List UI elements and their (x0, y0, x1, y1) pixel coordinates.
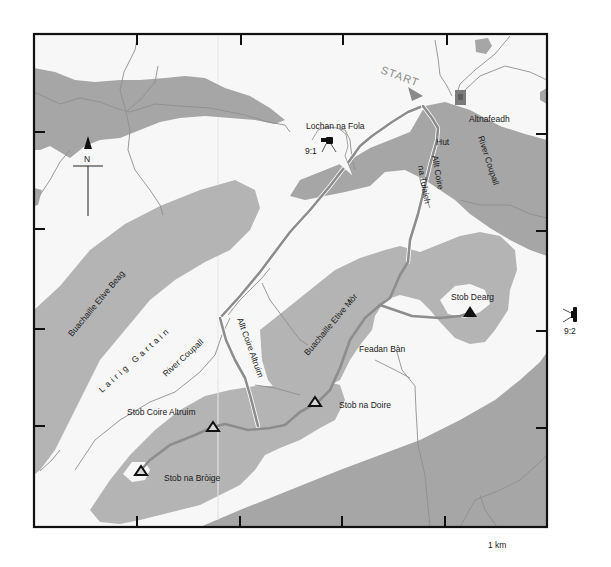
north-label: N (84, 154, 90, 164)
place-label-stob-na-broige: Stob na Bròige (164, 473, 221, 483)
place-label-lochan-na-fola: Lochan na Fola (306, 121, 365, 131)
photo-point-label: 9:2 (564, 326, 576, 336)
route-map: N START 9:1 9:2 Altnafeadh Lochan na Fol… (0, 0, 611, 567)
place-label-altnafeadh: Altnafeadh (469, 114, 510, 124)
place-label-stob-na-doire: Stob na Doire (339, 400, 391, 410)
place-label-feadan-ban: Feadan Bàn (359, 344, 406, 354)
place-label-stob-dearg: Stob Dearg (451, 292, 494, 302)
photo-point-9-2-icon (563, 307, 577, 322)
scale-label: 1 km (488, 540, 506, 550)
photo-point-label: 9:1 (305, 146, 317, 156)
place-label-hut: Hut (436, 137, 450, 147)
building-roof-icon (458, 94, 463, 100)
place-label-stob-coire-altruim: Stob Coire Altruim (127, 407, 196, 417)
